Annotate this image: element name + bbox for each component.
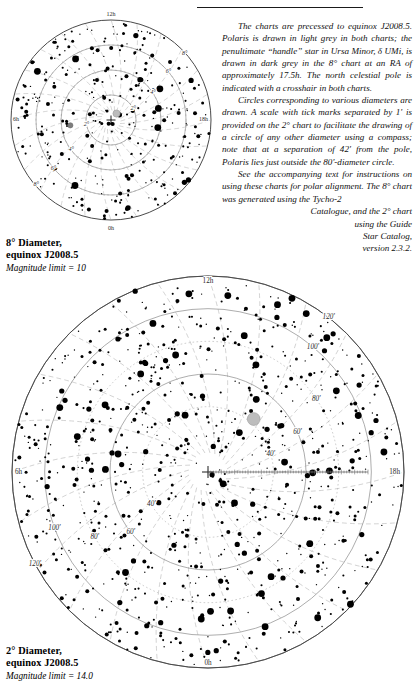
svg-text:100': 100' [48,524,61,532]
svg-text:40': 40' [266,450,275,458]
svg-text:12h: 12h [107,12,116,17]
caption-2-line2: equinox J2008.5 [6,657,93,669]
svg-text:60': 60' [293,428,302,436]
svg-text:40': 40' [147,500,156,508]
svg-text:6°: 6° [166,68,172,74]
svg-text:2°: 2° [130,105,136,111]
page-root: 8°8°6°6°4°4°2°2°2°2°4°4°6°6°8°8°12h12h6h… [0,0,415,688]
svg-text:80': 80' [90,533,99,541]
paragraph-3-tail-4: version 2.3.2. [222,242,412,254]
svg-text:6°: 6° [51,165,57,171]
svg-text:18h: 18h [389,468,400,476]
paragraph-3: See the accompanying text for instructio… [222,168,412,254]
svg-text:18h: 18h [199,116,208,122]
svg-text:100': 100' [307,343,320,351]
svg-text:4°: 4° [68,146,74,152]
svg-text:2°: 2° [84,121,90,127]
top-horizontal-rule [197,7,363,8]
svg-text:80': 80' [312,395,321,403]
body-text-column: The charts are precessed to equinox J200… [222,20,412,255]
paragraph-2: Circles corresponding to various diamete… [222,94,412,168]
svg-text:6h: 6h [15,468,23,476]
svg-text:60': 60' [126,528,135,536]
svg-text:8°: 8° [182,50,188,56]
svg-text:120': 120' [323,313,336,321]
paragraph-3-main: See the accompanying text for instructio… [222,169,412,204]
svg-text:12h: 12h [203,277,214,285]
paragraph-3-tail-1: Catalogue, and the 2° chart [222,205,412,217]
caption-2-degree: 2° Diameter, equinox J2008.5 Magnitude l… [6,645,93,683]
paragraph-3-tail-2: using the Guide [222,218,412,230]
svg-text:0h: 0h [204,659,212,667]
paragraph-1: The charts are precessed to equinox J200… [222,20,412,94]
paragraph-3-tail-3: Star Catalog, [222,230,412,242]
svg-text:6h: 6h [13,116,19,122]
caption-8-degree: 8° Diameter, equinox J2008.5 Magnitude l… [6,237,86,275]
caption-2-line1: 2° Diameter, [6,645,93,657]
chart-2-degree: 120'120'100'100'80'80'60'60'40'40'40'40'… [2,272,414,684]
svg-text:0h: 0h [108,225,114,231]
svg-text:4°: 4° [150,89,156,95]
caption-2-line3: Magnitude limit = 14.0 [6,670,93,682]
caption-8-line2: equinox J2008.5 [6,249,86,261]
svg-text:120': 120' [29,560,42,568]
svg-text:8°: 8° [34,181,40,187]
caption-8-line1: 8° Diameter, [6,237,86,249]
chart-8-degree: 8°8°6°6°4°4°2°2°2°2°4°4°6°6°8°8°12h12h6h… [8,12,214,238]
